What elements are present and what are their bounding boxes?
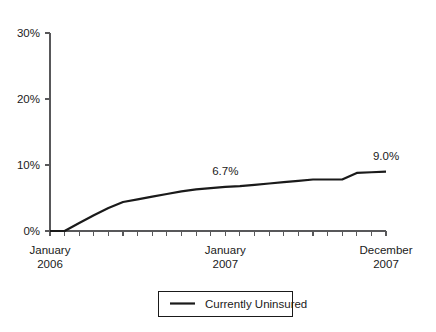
x-axis-category-year: 2007 — [373, 258, 399, 270]
line-chart: 0%10%20%30% January2006January2007Decemb… — [0, 0, 436, 332]
y-axis-tick-label: 20% — [17, 93, 40, 105]
x-axis-category-year: 2007 — [213, 258, 239, 270]
x-axis-category-year: 2006 — [37, 258, 63, 270]
chart-container: 0%10%20%30% January2006January2007Decemb… — [0, 0, 436, 332]
series-line-currently-uninsured — [50, 172, 386, 231]
y-axis-tick-label: 0% — [23, 225, 40, 237]
y-axis-tick-group — [45, 33, 50, 231]
x-axis-category-group: January2006January2007December2007 — [30, 244, 413, 270]
y-axis-tick-label: 30% — [17, 27, 40, 39]
chart-legend: Currently Uninsured — [158, 291, 307, 316]
y-axis-label-group: 0%10%20%30% — [17, 27, 40, 237]
data-point-label: 6.7% — [212, 165, 238, 177]
data-point-label: 9.0% — [373, 150, 399, 162]
x-axis-tick-group — [50, 231, 386, 236]
x-axis-category-label: January — [205, 244, 246, 256]
x-axis-category-label: December — [359, 244, 412, 256]
legend-label-currently-uninsured: Currently Uninsured — [205, 298, 307, 310]
y-axis-tick-label: 10% — [17, 159, 40, 171]
x-axis-category-label: January — [30, 244, 71, 256]
